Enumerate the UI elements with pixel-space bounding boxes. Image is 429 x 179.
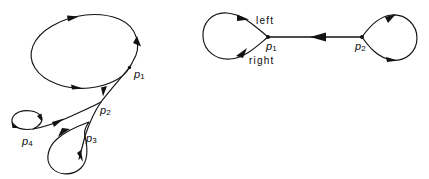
- label-p1-right: p1: [266, 41, 277, 53]
- arrowhead-edge-left: [310, 33, 326, 42]
- arrowhead-ellipse-right: [133, 36, 141, 47]
- left-panel-group: [12, 15, 142, 174]
- label-p1-left: p1: [134, 69, 145, 81]
- label-p3-left: p3: [86, 133, 97, 145]
- label-p2-right: p2: [355, 41, 366, 53]
- label-left-word: left: [256, 16, 274, 26]
- arrowhead-branch-to-p4: [52, 119, 64, 128]
- arrowhead-p4-loop-right: [37, 114, 42, 122]
- label-p2-left: p2: [100, 105, 111, 117]
- label-p4-left: p4: [22, 136, 33, 148]
- arrowhead-p3-loop-upper: [58, 128, 70, 137]
- vertex-dot-p1-right: [266, 35, 270, 39]
- arrowhead-left-loop-bottom: [236, 48, 247, 58]
- arrowhead-right-loop-bottom: [386, 57, 398, 62]
- arrowhead-ellipse-top: [67, 16, 79, 22]
- diagram-svg: [0, 0, 429, 179]
- vertex-dot-p2-right: [360, 35, 364, 39]
- label-right-word: right: [249, 56, 274, 66]
- right-panel-right-loop: [362, 15, 417, 60]
- branch-p2-to-p4-curve: [33, 102, 101, 129]
- right-panel-group: [203, 13, 417, 62]
- figure-canvas: p1 p2 p3 p4 left right p1 p2: [0, 0, 429, 179]
- arrowhead-p3-loop-right: [77, 150, 83, 162]
- vertex-dot-p1-left: [128, 66, 131, 69]
